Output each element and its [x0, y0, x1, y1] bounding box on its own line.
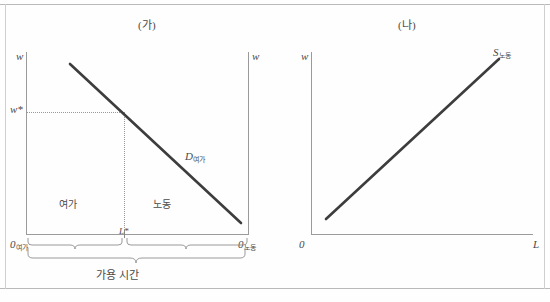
supply-curve-line [326, 59, 499, 219]
leisure-brace [28, 238, 122, 249]
panel-labor-supply: (나) w L 0 S노동 [285, 0, 550, 302]
panel-a-graphics [0, 0, 285, 302]
panel-leisure-labor: (가) w w w* L* 0여가 0노동 D여가 여가 노동 가용 시간 [0, 0, 285, 302]
panel-b-graphics [285, 0, 550, 302]
labor-brace [127, 238, 247, 249]
economics-figure: (가) w w w* L* 0여가 0노동 D여가 여가 노동 가용 시간 [0, 0, 550, 302]
demand-curve-line [70, 64, 241, 223]
total-time-brace [28, 248, 245, 263]
